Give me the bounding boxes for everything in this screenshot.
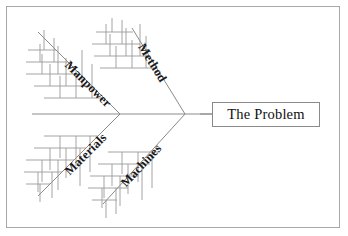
- problem-statement-label: The Problem: [227, 106, 305, 123]
- problem-statement-box: The Problem: [212, 102, 320, 127]
- fishbone-diagram-canvas: Manpower Method Materials Machines The P…: [0, 0, 348, 236]
